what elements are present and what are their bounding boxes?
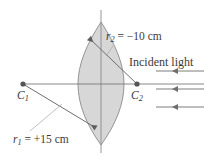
point-c2-dot bbox=[134, 81, 139, 86]
label-r1-value: = +15 cm bbox=[22, 133, 69, 145]
label-c1: C1 bbox=[17, 90, 29, 103]
label-r2: r2 = −10 cm bbox=[106, 31, 162, 44]
incident-ray-group bbox=[156, 68, 204, 110]
label-c2-subscript: 2 bbox=[139, 94, 143, 103]
leader-line-r1 bbox=[30, 104, 62, 131]
label-c1-symbol: C bbox=[17, 89, 25, 101]
label-incident-light: Incident light bbox=[129, 56, 193, 68]
label-c2-symbol: C bbox=[131, 89, 139, 101]
point-c1-dot bbox=[20, 81, 25, 86]
label-c2: C2 bbox=[131, 90, 143, 103]
label-c1-subscript: 1 bbox=[25, 94, 29, 103]
lens-ray-diagram-figure: r2 = −10 cm r1 = +15 cm Incident light C… bbox=[0, 0, 204, 163]
incident-ray-3-arrow-icon bbox=[172, 104, 178, 110]
label-r1: r1 = +15 cm bbox=[13, 134, 69, 147]
label-r2-value: = −10 cm bbox=[115, 30, 162, 42]
incident-ray-2-arrow-icon bbox=[172, 86, 178, 92]
